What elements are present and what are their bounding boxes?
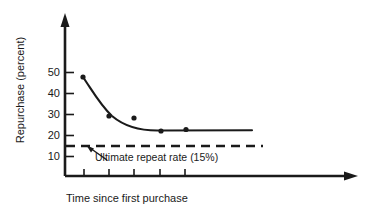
y-axis-ticks bbox=[65, 73, 74, 157]
y-axis-label: Repurchase (percent) bbox=[14, 25, 26, 155]
y-tick-label-20: 20 bbox=[38, 130, 60, 141]
data-point bbox=[106, 113, 111, 118]
y-tick-label-50: 50 bbox=[38, 67, 60, 78]
y-tick-label-30: 30 bbox=[38, 109, 60, 120]
data-point bbox=[183, 127, 188, 132]
data-point bbox=[80, 74, 85, 79]
ultimate-repeat-rate-annotation: Ultimate repeat rate (15%) bbox=[95, 151, 218, 163]
data-point bbox=[131, 115, 136, 120]
y-axis bbox=[61, 13, 70, 176]
y-tick-label-10: 10 bbox=[38, 151, 60, 162]
fitted-curve bbox=[83, 77, 252, 131]
chart-canvas bbox=[0, 0, 380, 213]
data-points bbox=[80, 74, 188, 133]
y-tick-label-40: 40 bbox=[38, 88, 60, 99]
x-axis-label: Time since first purchase bbox=[66, 192, 188, 204]
repurchase-decay-chart: 50 40 30 20 10 Repurchase (percent) Time… bbox=[0, 0, 380, 213]
data-point bbox=[158, 128, 163, 133]
